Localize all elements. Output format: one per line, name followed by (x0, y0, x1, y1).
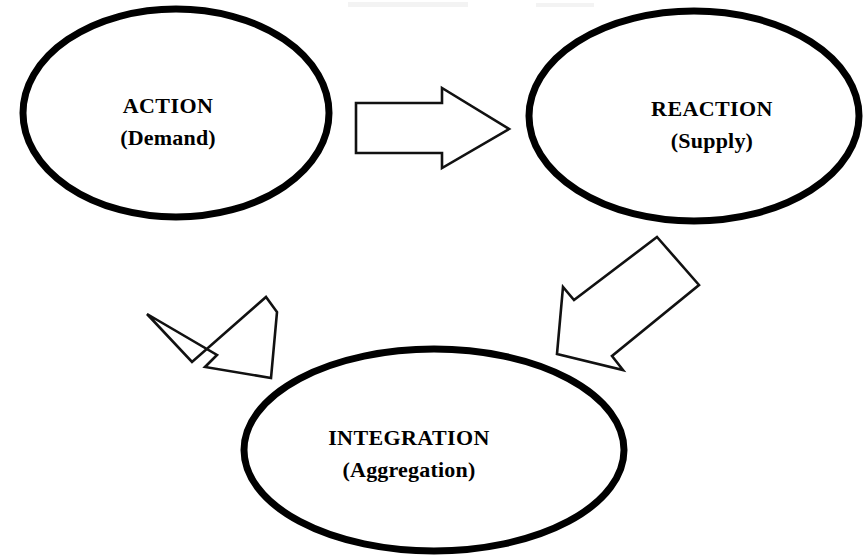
action-secondary-label: (Demand) (120, 125, 216, 150)
reaction-primary-label: REACTION (651, 96, 773, 121)
node-reaction[interactable]: REACTION (Supply) (529, 11, 859, 221)
diagram-canvas: ACTION (Demand) REACTION (Supply) INTEGR… (0, 0, 868, 556)
arrow-integration-to-action (147, 297, 277, 378)
arrow-action-to-reaction (356, 88, 509, 168)
integration-ellipse[interactable] (244, 349, 624, 551)
reaction-secondary-label: (Supply) (671, 128, 753, 153)
down-left-block-arrow-icon (557, 237, 699, 370)
action-primary-label: ACTION (123, 93, 213, 118)
integration-secondary-label: (Aggregation) (343, 457, 476, 482)
node-integration[interactable]: INTEGRATION (Aggregation) (244, 349, 624, 551)
up-left-block-arrow-icon (147, 297, 277, 378)
cycle-diagram: ACTION (Demand) REACTION (Supply) INTEGR… (0, 0, 868, 556)
integration-primary-label: INTEGRATION (328, 425, 490, 450)
arrow-reaction-to-integration (557, 237, 699, 370)
right-block-arrow-icon (356, 88, 509, 168)
node-action[interactable]: ACTION (Demand) (23, 9, 329, 217)
